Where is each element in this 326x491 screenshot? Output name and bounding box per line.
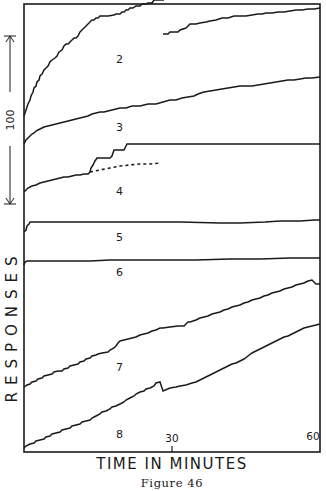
curve-6 <box>24 258 320 265</box>
curve-label-4: 4 <box>116 185 123 198</box>
curve-label-3: 3 <box>116 121 123 134</box>
curve-8 <box>24 324 320 448</box>
curve-2 <box>24 0 320 116</box>
x-axis-label: TIME IN MINUTES <box>95 455 247 473</box>
curve-4-extrapolation <box>90 163 160 172</box>
curve-label-2: 2 <box>116 53 123 66</box>
x-tick-label-60: 60 <box>306 430 319 442</box>
curve-label-5: 5 <box>116 231 123 244</box>
figure-caption: Figure 46 <box>141 476 203 490</box>
curve-label-8: 8 <box>116 428 123 441</box>
scale-label: 100 <box>4 110 17 131</box>
plot-frame <box>24 4 320 452</box>
curve-7 <box>24 280 320 387</box>
x-tick-label-30: 30 <box>165 432 178 444</box>
curve-label-6: 6 <box>116 266 123 279</box>
curve-3 <box>24 77 320 144</box>
y-axis-label: RESPONSES <box>3 249 21 402</box>
cumulative-record-chart: 100 2 3 4 5 6 7 8 30 60 TIME IN MINUTES … <box>0 0 326 491</box>
curve-label-7: 7 <box>116 361 123 374</box>
curve-4 <box>24 144 320 192</box>
curve-5 <box>24 220 320 232</box>
